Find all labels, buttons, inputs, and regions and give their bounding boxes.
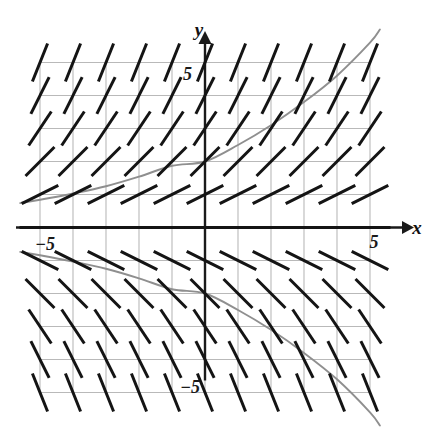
- y-tick-label-positive: 5: [183, 64, 192, 84]
- y-axis-label: y: [193, 19, 204, 40]
- y-tick-label-negative: −5: [180, 377, 200, 397]
- x-axis-label: x: [411, 217, 422, 238]
- slope-field-figure: y x 5 −5 5 −5: [0, 0, 437, 428]
- x-tick-label-negative: −5: [35, 234, 55, 254]
- x-tick-label-positive: 5: [370, 232, 379, 252]
- slope-field-plot: y x 5 −5 5 −5: [0, 0, 437, 428]
